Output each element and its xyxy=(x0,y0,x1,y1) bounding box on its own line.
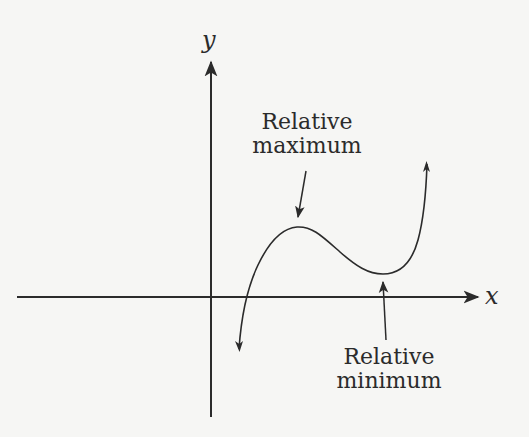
cubic-curve xyxy=(239,164,427,349)
relative-max-line2: maximum xyxy=(246,134,368,158)
x-axis-label: x xyxy=(485,282,499,310)
y-axis-label: y xyxy=(202,26,216,54)
relative-max-line1: Relative xyxy=(246,110,368,134)
relative-min-pointer xyxy=(383,282,386,340)
relative-max-pointer xyxy=(298,171,306,217)
relative-max-label: Relative maximum xyxy=(246,110,368,158)
relative-min-label: Relative minimum xyxy=(328,345,450,393)
relative-min-line1: Relative xyxy=(328,345,450,369)
relative-min-line2: minimum xyxy=(328,369,450,393)
